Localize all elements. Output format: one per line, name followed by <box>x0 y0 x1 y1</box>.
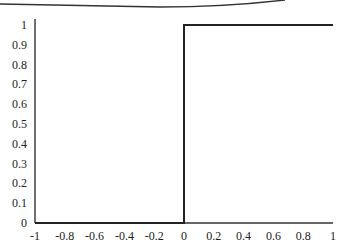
x-tick-label: 0.6 <box>266 229 281 243</box>
x-tick-label: -1 <box>30 229 40 243</box>
y-tick-labels: 00.10.20.30.40.50.60.70.80.91 <box>12 18 27 230</box>
x-tick-label: -0.8 <box>55 229 74 243</box>
y-tick-label: 0.6 <box>12 97 27 111</box>
x-tick-label: 0.4 <box>236 229 251 243</box>
y-tick-label: 0.1 <box>12 196 27 210</box>
top-edge-curve <box>0 0 285 7</box>
x-tick-label: -0.2 <box>145 229 164 243</box>
y-tick-label: 0.2 <box>12 176 27 190</box>
y-tick-label: 0.8 <box>12 58 27 72</box>
x-tick-label: -0.4 <box>115 229 134 243</box>
y-tick-label: 0.9 <box>12 38 27 52</box>
x-tick-label: 0 <box>181 229 187 243</box>
x-tick-label: 0.2 <box>206 229 221 243</box>
data-series <box>35 25 333 223</box>
y-tick-label: 0.4 <box>12 137 27 151</box>
step-function-chart: 00.10.20.30.40.50.60.70.80.91 -1-0.8-0.6… <box>0 0 343 245</box>
y-tick-label: 0.7 <box>12 77 27 91</box>
x-tick-label: 0.8 <box>296 229 311 243</box>
series-line <box>35 25 333 223</box>
y-tick-label: 0.3 <box>12 157 27 171</box>
y-tick-label: 1 <box>21 18 27 32</box>
x-tick-label: -0.6 <box>85 229 104 243</box>
x-tick-label: 1 <box>330 229 336 243</box>
y-tick-label: 0.5 <box>12 117 27 131</box>
x-tick-labels: -1-0.8-0.6-0.4-0.200.20.40.60.81 <box>30 229 336 243</box>
y-tick-label: 0 <box>21 216 27 230</box>
